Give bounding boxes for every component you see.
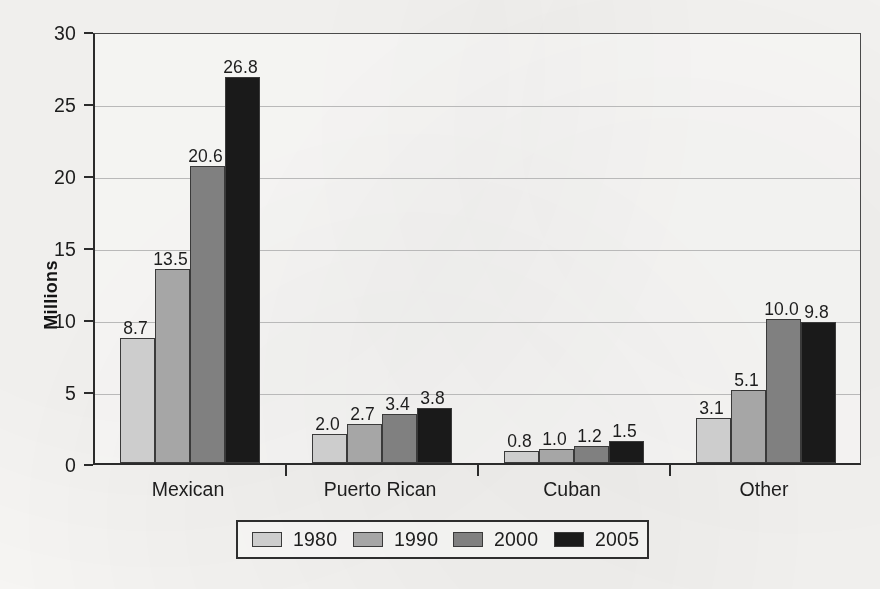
y-axis-tick-label: 15	[30, 238, 76, 261]
legend-item-2005[interactable]: 2005	[554, 522, 639, 557]
y-axis-tick-mark	[84, 32, 93, 34]
bar-value-label: 2.7	[350, 404, 375, 425]
legend-swatch-2000	[453, 532, 483, 547]
chart-legend: 1980199020002005	[236, 520, 649, 559]
bar-value-label: 1.0	[542, 429, 567, 450]
bar-value-label: 2.0	[315, 414, 340, 435]
bar-value-label: 9.8	[804, 302, 829, 323]
gridline	[95, 106, 860, 107]
legend-swatch-1990	[353, 532, 383, 547]
bar-value-label: 1.2	[577, 426, 602, 447]
y-axis-tick-label: 30	[30, 22, 76, 45]
bar-mexican-1980	[120, 338, 155, 463]
legend-item-1990[interactable]: 1990	[353, 522, 438, 557]
x-axis-separator-tick	[285, 465, 287, 476]
plot-area	[93, 33, 861, 465]
bar-value-label: 5.1	[734, 370, 759, 391]
bar-value-label: 10.0	[764, 299, 798, 320]
y-axis-tick-label: 5	[30, 382, 76, 405]
bar-mexican-2000	[190, 166, 225, 463]
legend-label-1980: 1980	[293, 528, 337, 551]
x-axis-category-label: Puerto Rican	[324, 478, 437, 501]
bar-chart: Millions 0510152025308.713.520.626.8Mexi…	[0, 0, 880, 589]
bar-puerto-rican-1990	[347, 424, 382, 463]
bar-value-label: 0.8	[507, 431, 532, 452]
x-axis-separator-tick	[477, 465, 479, 476]
y-axis-tick-label: 20	[30, 166, 76, 189]
legend-swatch-2005	[554, 532, 584, 547]
bar-cuban-1990	[539, 449, 574, 463]
bar-value-label: 26.8	[223, 57, 257, 78]
bar-other-1990	[731, 390, 766, 463]
bar-puerto-rican-1980	[312, 434, 347, 463]
legend-label-2000: 2000	[494, 528, 538, 551]
legend-label-1990: 1990	[394, 528, 438, 551]
bar-value-label: 13.5	[153, 249, 187, 270]
bar-mexican-2005	[225, 77, 260, 463]
legend-label-2005: 2005	[595, 528, 639, 551]
y-axis-tick-mark	[84, 320, 93, 322]
y-axis-tick-mark	[84, 104, 93, 106]
x-axis-category-label: Other	[740, 478, 789, 501]
y-axis-tick-label: 0	[30, 454, 76, 477]
x-axis-category-label: Mexican	[152, 478, 225, 501]
bar-other-2000	[766, 319, 801, 463]
bar-value-label: 1.5	[612, 421, 637, 442]
legend-item-2000[interactable]: 2000	[453, 522, 538, 557]
x-axis-category-label: Cuban	[543, 478, 600, 501]
bar-value-label: 3.4	[385, 394, 410, 415]
y-axis-tick-mark	[84, 464, 93, 466]
bar-other-2005	[801, 322, 836, 463]
bar-cuban-1980	[504, 451, 539, 463]
bar-cuban-2005	[609, 441, 644, 463]
bar-mexican-1990	[155, 269, 190, 463]
legend-item-1980[interactable]: 1980	[252, 522, 337, 557]
bar-cuban-2000	[574, 446, 609, 463]
bar-puerto-rican-2005	[417, 408, 452, 463]
y-axis-tick-mark	[84, 248, 93, 250]
y-axis-tick-label: 25	[30, 94, 76, 117]
y-axis-tick-mark	[84, 176, 93, 178]
bar-puerto-rican-2000	[382, 414, 417, 463]
x-axis-separator-tick	[669, 465, 671, 476]
y-axis-tick-label: 10	[30, 310, 76, 333]
bar-value-label: 3.8	[420, 388, 445, 409]
y-axis-tick-mark	[84, 392, 93, 394]
bar-value-label: 3.1	[699, 398, 724, 419]
bar-value-label: 8.7	[123, 318, 148, 339]
legend-swatch-1980	[252, 532, 282, 547]
bar-other-1980	[696, 418, 731, 463]
bar-value-label: 20.6	[188, 146, 222, 167]
